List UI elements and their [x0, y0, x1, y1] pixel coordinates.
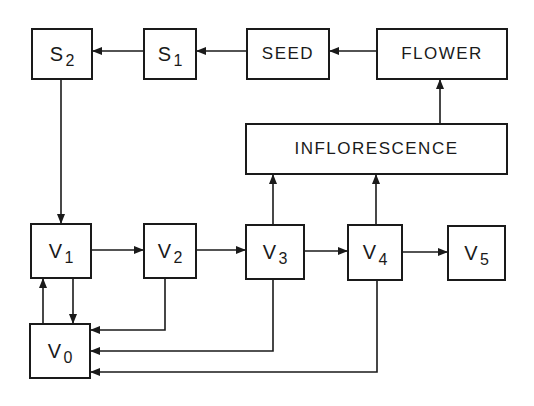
node-subscript: 3	[278, 250, 287, 268]
node-v2: V2	[143, 223, 197, 279]
node-label: S	[50, 43, 64, 66]
node-subscript: 1	[64, 249, 73, 267]
node-subscript: 4	[378, 251, 387, 269]
node-subscript: 1	[173, 52, 182, 70]
node-label: SEED	[262, 44, 314, 64]
node-v0: V0	[29, 323, 91, 379]
node-seed: SEED	[246, 28, 330, 80]
node-label: V	[158, 240, 172, 263]
node-s2: S2	[31, 28, 93, 80]
edge-v3-to-v0	[91, 280, 273, 351]
node-label: V	[49, 240, 63, 263]
node-inflorescence: INFLORESCENCE	[245, 123, 508, 175]
node-label: V	[464, 242, 478, 265]
node-label: V	[363, 241, 377, 264]
node-subscript: 0	[63, 349, 72, 367]
node-v5: V5	[447, 225, 506, 281]
node-s1: S1	[143, 28, 197, 80]
node-label: V	[263, 241, 277, 264]
node-flower: FLOWER	[376, 28, 508, 80]
node-subscript: 5	[480, 251, 489, 269]
node-v1: V1	[30, 223, 92, 279]
edge-v2-to-v0	[91, 279, 165, 330]
node-label: S	[158, 43, 172, 66]
node-subscript: 2	[65, 52, 74, 70]
node-subscript: 2	[173, 249, 182, 267]
node-label: INFLORESCENCE	[294, 139, 458, 159]
node-v4: V4	[347, 224, 403, 281]
node-label: FLOWER	[401, 44, 483, 64]
edge-v4-to-v0	[91, 281, 377, 372]
node-label: V	[48, 340, 62, 363]
flowchart-diagram: S2 S1 SEED FLOWER INFLORESCENCE V1 V2 V3…	[0, 0, 534, 406]
node-v3: V3	[245, 224, 305, 280]
